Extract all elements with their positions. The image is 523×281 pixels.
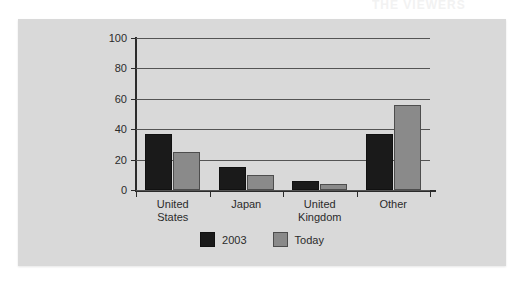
- legend-swatch-icon: [200, 232, 215, 247]
- gridline-100: [136, 38, 430, 39]
- y-tick-label-80: 80: [115, 62, 127, 74]
- category-label-japan: Japan: [231, 198, 261, 211]
- y-tick-mark-80: [131, 68, 136, 69]
- x-tick-mark-start: [136, 191, 137, 197]
- gridline-80: [136, 68, 430, 69]
- bar-2003-japan: [219, 167, 246, 190]
- y-tick-mark-100: [131, 38, 136, 39]
- y-axis-line: [135, 37, 137, 191]
- category-label-line: United: [157, 198, 189, 211]
- y-tick-label-100: 100: [109, 32, 127, 44]
- legend-label: Today: [295, 234, 324, 246]
- y-tick-label-20: 20: [115, 154, 127, 166]
- bar-2003-other: [366, 134, 393, 190]
- category-label-united-states: UnitedStates: [157, 198, 189, 224]
- category-label-line: United: [298, 198, 341, 211]
- chart-legend: 2003Today: [18, 232, 506, 247]
- legend-label: 2003: [222, 234, 246, 246]
- category-label-line: Japan: [231, 198, 261, 211]
- legend-entry-2003[interactable]: 2003: [200, 232, 246, 247]
- bar-today-japan: [247, 175, 274, 190]
- category-label-line: Other: [379, 198, 407, 211]
- y-tick-mark-40: [131, 129, 136, 130]
- y-tick-mark-60: [131, 99, 136, 100]
- bar-2003-united-states: [145, 134, 172, 190]
- x-tick-mark-4: [430, 191, 431, 197]
- y-tick-label-60: 60: [115, 93, 127, 105]
- y-tick-label-40: 40: [115, 123, 127, 135]
- x-tick-mark-2: [283, 191, 284, 197]
- gridline-60: [136, 99, 430, 100]
- bar-today-other: [394, 105, 421, 190]
- legend-swatch-icon: [273, 232, 288, 247]
- plot-area: 020406080100 UnitedStatesJapanUnitedKing…: [136, 38, 430, 190]
- x-tick-mark-1: [210, 191, 211, 197]
- chart-figure-panel: 020406080100 UnitedStatesJapanUnitedKing…: [18, 19, 506, 266]
- category-label-line: Kingdom: [298, 211, 341, 224]
- y-tick-label-0: 0: [121, 184, 127, 196]
- page-top-bleed-text: THE VIEWERS: [372, 0, 507, 11]
- category-label-line: States: [157, 211, 189, 224]
- bar-today-united-kingdom: [320, 184, 347, 190]
- x-tick-mark-3: [357, 191, 358, 197]
- category-label-united-kingdom: UnitedKingdom: [298, 198, 341, 224]
- gridline-40: [136, 129, 430, 130]
- bar-2003-united-kingdom: [292, 181, 319, 190]
- legend-entry-today[interactable]: Today: [273, 232, 324, 247]
- y-tick-mark-20: [131, 160, 136, 161]
- category-label-other: Other: [379, 198, 407, 211]
- bar-today-united-states: [173, 152, 200, 190]
